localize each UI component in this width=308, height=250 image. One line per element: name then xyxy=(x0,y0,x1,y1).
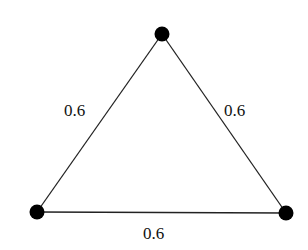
node-bottom-right xyxy=(279,206,294,221)
node-top xyxy=(155,27,170,42)
graph-svg: 0.6 0.6 0.6 xyxy=(0,0,308,250)
edge-top-bottom-left xyxy=(37,34,162,212)
node-bottom-left xyxy=(30,205,45,220)
edge-bottom xyxy=(37,212,286,213)
left-edge-weight: 0.6 xyxy=(64,101,85,120)
edge-top-bottom-right xyxy=(162,34,286,213)
bottom-edge-weight: 0.6 xyxy=(143,224,164,243)
right-edge-weight: 0.6 xyxy=(224,101,245,120)
triangle-graph-diagram: 0.6 0.6 0.6 xyxy=(0,0,308,250)
